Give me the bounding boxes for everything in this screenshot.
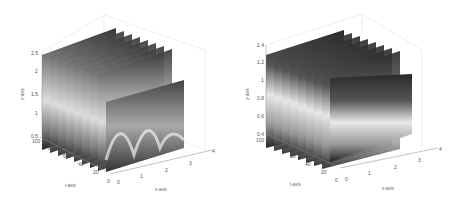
right-z-ticks: 1.4 1.2 1 0.8 0.6 0.4 — [257, 42, 264, 137]
svg-text:20: 20 — [321, 169, 327, 175]
svg-text:40: 40 — [78, 161, 84, 167]
right-t-label: t-axis — [290, 182, 302, 187]
svg-text:1: 1 — [35, 110, 38, 116]
svg-text:0.6: 0.6 — [257, 113, 264, 119]
left-3d-plot: 2.5 2 1.5 1 0.5 100 80 60 40 20 0 0 1 2 … — [0, 0, 232, 202]
left-plot-svg: 2.5 2 1.5 1 0.5 100 80 60 40 20 0 0 1 2 … — [0, 0, 232, 202]
right-x-label: x-axis — [382, 186, 395, 191]
svg-text:4: 4 — [439, 146, 442, 152]
left-x-label: x-axis — [155, 187, 168, 192]
svg-text:1: 1 — [140, 173, 143, 179]
left-t-label: t-axis — [65, 183, 77, 188]
left-z-label: z-axis — [20, 87, 25, 100]
svg-text:1: 1 — [368, 170, 371, 176]
right-plot-svg: 1.4 1.2 1 0.8 0.6 0.4 100 80 60 40 20 0 … — [232, 0, 464, 202]
svg-text:0: 0 — [345, 176, 348, 182]
svg-text:20: 20 — [93, 169, 99, 175]
svg-text:80: 80 — [48, 145, 54, 151]
svg-text:1.4: 1.4 — [257, 42, 264, 48]
svg-text:3: 3 — [189, 160, 192, 166]
svg-text:40: 40 — [305, 161, 311, 167]
svg-text:2: 2 — [394, 164, 397, 170]
svg-text:1.2: 1.2 — [257, 59, 264, 65]
svg-text:2: 2 — [165, 167, 168, 173]
svg-text:60: 60 — [290, 153, 296, 159]
svg-text:4: 4 — [212, 148, 215, 154]
svg-text:0: 0 — [117, 179, 120, 185]
svg-text:2.5: 2.5 — [31, 50, 38, 56]
svg-text:3: 3 — [418, 157, 421, 163]
svg-text:60: 60 — [63, 153, 69, 159]
svg-text:1.5: 1.5 — [31, 91, 38, 97]
left-z-ticks: 2.5 2 1.5 1 0.5 — [31, 50, 38, 139]
svg-text:1: 1 — [261, 77, 264, 83]
right-slices — [266, 30, 412, 169]
svg-text:0.8: 0.8 — [257, 95, 264, 101]
right-z-label: z-axis — [245, 87, 250, 100]
left-slices — [42, 28, 184, 172]
svg-text:80: 80 — [274, 145, 280, 151]
svg-text:0: 0 — [107, 178, 110, 184]
svg-text:0: 0 — [335, 177, 338, 183]
svg-text:100: 100 — [32, 138, 41, 144]
svg-text:100: 100 — [256, 137, 265, 143]
svg-text:2: 2 — [35, 68, 38, 74]
right-3d-plot: 1.4 1.2 1 0.8 0.6 0.4 100 80 60 40 20 0 … — [232, 0, 464, 202]
